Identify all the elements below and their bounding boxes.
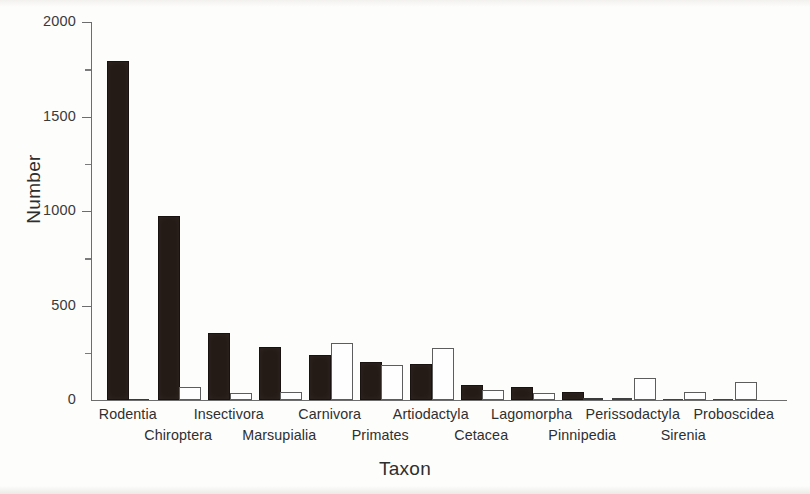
y-tick-major: [82, 117, 91, 118]
bar-filled: [410, 364, 432, 400]
x-category-label: Sirenia: [613, 427, 753, 443]
bar-filled: [461, 385, 483, 400]
bar-open: [129, 399, 149, 401]
bar-group: [713, 22, 755, 400]
bar-open: [381, 365, 403, 400]
bar-open: [583, 398, 603, 400]
bar-open: [280, 392, 302, 400]
y-tick-label: 2000: [28, 13, 76, 29]
bar-filled: [107, 61, 129, 400]
bar-group: [360, 22, 402, 400]
bar-open: [533, 393, 555, 400]
y-tick-label: 500: [28, 297, 76, 313]
bar-group: [663, 22, 705, 400]
x-axis-title: Taxon: [0, 458, 810, 480]
y-tick-major: [82, 306, 91, 307]
bar-open: [230, 393, 252, 400]
bar-filled: [663, 399, 683, 401]
bar-group: [158, 22, 200, 400]
bar-filled: [158, 216, 180, 400]
y-tick-major: [82, 211, 91, 212]
bar-group: [259, 22, 301, 400]
bar-filled: [208, 333, 230, 400]
y-axis-tick-labels: 0500100015002000: [24, 0, 76, 430]
bar-group: [208, 22, 250, 400]
y-tick-label: 1500: [28, 108, 76, 124]
y-tick-label: 0: [28, 391, 76, 407]
bar-open: [482, 390, 504, 400]
bar-filled: [360, 362, 382, 400]
bar-filled: [511, 387, 533, 400]
bar-open: [432, 348, 454, 400]
x-axis-line: [92, 400, 787, 401]
bar-filled: [612, 398, 632, 400]
y-tick-label: 1000: [28, 202, 76, 218]
figure-mammal-taxon-bar-chart: Number 0500100015002000 RodentiaChiropte…: [0, 0, 810, 494]
bar-filled: [713, 399, 733, 401]
page-edge-top: [0, 0, 810, 7]
bar-group: [612, 22, 654, 400]
y-tick-major: [82, 22, 91, 23]
x-category-label: Proboscidea: [664, 406, 804, 422]
page-edge-bottom: [0, 486, 810, 494]
bar-open: [735, 382, 757, 400]
bar-filled: [309, 355, 331, 400]
bar-group: [410, 22, 452, 400]
bar-group: [461, 22, 503, 400]
bar-filled: [562, 392, 584, 400]
bar-open: [179, 387, 201, 400]
bar-filled: [259, 347, 281, 400]
bar-group: [511, 22, 553, 400]
bar-open: [634, 378, 656, 400]
bar-group: [562, 22, 604, 400]
bar-group: [309, 22, 351, 400]
plot-area: [92, 22, 786, 400]
bar-open: [684, 392, 706, 400]
bar-group: [107, 22, 149, 400]
bar-open: [331, 343, 353, 400]
